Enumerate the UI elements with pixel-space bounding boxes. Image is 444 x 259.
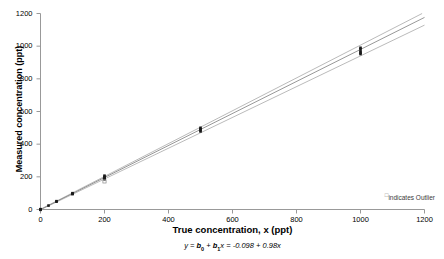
confidence-band-line-1 <box>41 25 425 210</box>
x-axis-tick-label: 200 <box>88 215 122 224</box>
confidence-band-line-0 <box>41 14 423 210</box>
x-axis-tick-label: 600 <box>216 215 250 224</box>
data-point-marker <box>199 130 202 133</box>
y-axis-tick-label: 200 <box>3 172 33 181</box>
chart-figure: Measured concentration (ppt) True concen… <box>0 0 444 259</box>
x-axis-tick-label: 800 <box>280 215 314 224</box>
data-point-marker <box>39 209 42 212</box>
x-axis-tick-label: 1200 <box>408 215 442 224</box>
data-point-marker <box>359 53 362 56</box>
x-axis-tick-label: 400 <box>152 215 186 224</box>
y-axis-tick-label: 400 <box>3 139 33 148</box>
y-axis-tick-label: 0 <box>3 205 33 214</box>
x-axis-title-text: True concentration, x (ppt) <box>173 224 293 235</box>
data-point-marker <box>55 200 58 203</box>
outlier-legend-label: indicates Outlier <box>388 194 435 201</box>
y-axis-tick-label: 1000 <box>3 41 33 50</box>
data-point-marker <box>71 193 74 196</box>
outlier-legend: □indicates Outlier <box>385 192 435 201</box>
data-point-marker <box>359 48 362 51</box>
x-axis-tick-label: 1000 <box>344 215 378 224</box>
y-axis-tick-label: 800 <box>3 74 33 83</box>
equation-x-var-2: x <box>277 241 281 250</box>
x-axis-title: True concentration, x (ppt) <box>40 224 425 235</box>
regression-equation: y = b0 + b1x = -0.098 + 0.98x <box>40 241 425 252</box>
y-axis-tick-label: 600 <box>3 107 33 116</box>
x-axis-tick-label: 0 <box>24 215 58 224</box>
equation-eq2: = <box>224 241 233 250</box>
equation-slope: 0.98 <box>262 241 277 250</box>
equation-intercept: -0.098 <box>233 241 254 250</box>
data-point-marker <box>103 178 106 181</box>
y-axis-tick-label: 1200 <box>3 9 33 18</box>
equation-plus: + <box>204 241 213 250</box>
regression-fit-line <box>41 17 425 209</box>
data-point-marker <box>47 204 50 207</box>
